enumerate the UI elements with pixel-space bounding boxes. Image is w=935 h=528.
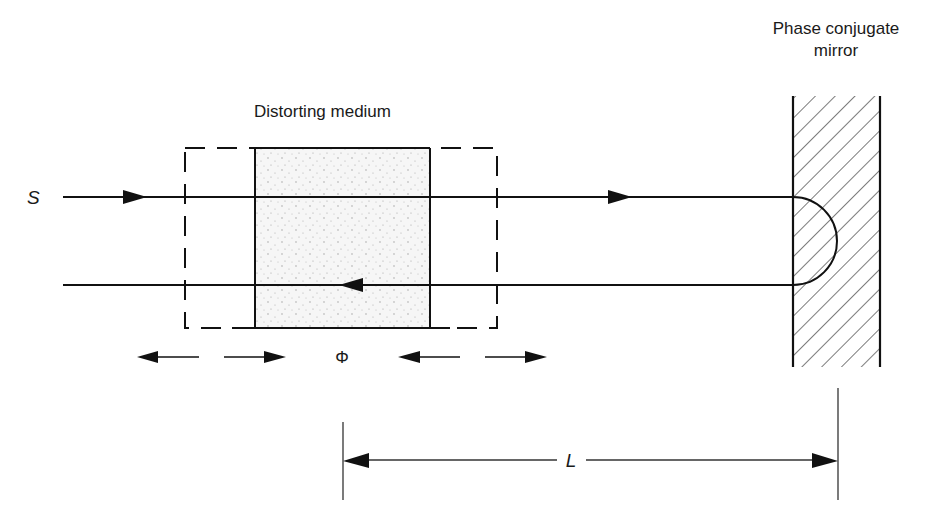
arrow-left-icon xyxy=(343,453,369,468)
arrow-right-icon xyxy=(264,351,286,363)
medium-label: Distorting medium xyxy=(254,102,391,121)
phase-conjugation-diagram: Distorting medium Phase conjugate mirror… xyxy=(0,0,935,528)
length-dimension xyxy=(343,388,838,500)
arrow-right-icon xyxy=(812,453,838,468)
mirror-label-line2: mirror xyxy=(814,41,859,60)
arrow-left-icon xyxy=(137,351,158,363)
phase-conjugate-mirror xyxy=(793,96,880,367)
source-label: S xyxy=(27,187,40,208)
arrow-right-icon xyxy=(525,351,547,363)
arrow-right-icon xyxy=(123,190,147,204)
arrow-left-icon xyxy=(398,351,420,363)
mirror-label-line1: Phase conjugate xyxy=(773,19,900,38)
arrow-right-icon xyxy=(608,190,632,204)
phase-label: Φ xyxy=(335,348,349,367)
distorting-medium xyxy=(232,148,450,328)
length-label: L xyxy=(566,450,577,471)
